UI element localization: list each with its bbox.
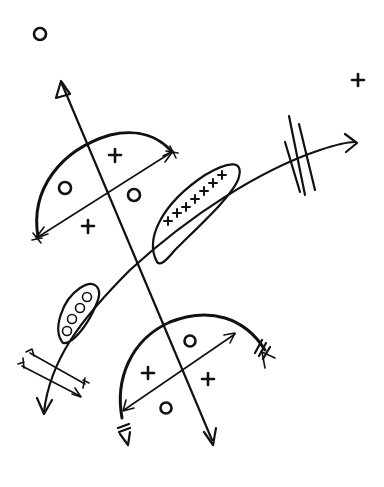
plus-ellipse xyxy=(153,164,240,263)
lower-plus-left xyxy=(142,367,154,379)
upper-plus-bottom xyxy=(82,220,94,233)
ellipse-circle-4 xyxy=(83,293,92,302)
lower-circle-top xyxy=(185,336,196,347)
diagonal-axis-arrow xyxy=(56,81,216,445)
lower-plus-right xyxy=(202,373,214,385)
main-curved-arrow xyxy=(37,116,357,414)
lower-circle-bottom xyxy=(161,403,172,414)
upper-circle-left xyxy=(59,182,71,194)
upper-plus-top xyxy=(109,149,121,162)
ellipse-circle-1 xyxy=(63,327,72,336)
circle-ellipse xyxy=(58,284,99,343)
ellipse-circle-3 xyxy=(76,304,85,313)
diagram-canvas xyxy=(0,0,384,487)
stray-plus-symbol xyxy=(352,74,364,86)
ellipse-circle-2 xyxy=(68,315,77,324)
lower-semicircle xyxy=(118,315,275,445)
upper-circle-right xyxy=(128,189,140,201)
stray-circle-symbol xyxy=(34,28,46,40)
